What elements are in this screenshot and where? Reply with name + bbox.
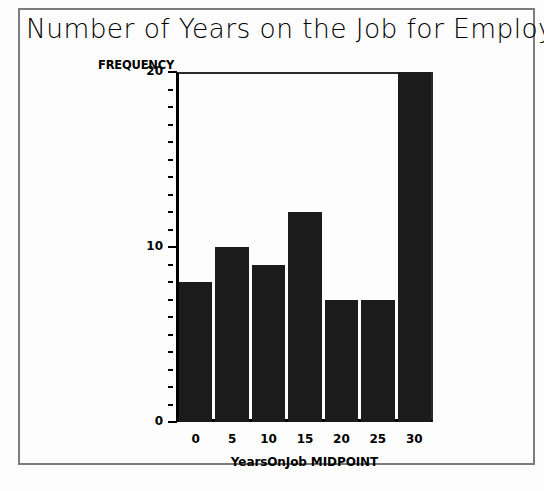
y-axis-minor-tick bbox=[168, 404, 173, 406]
x-axis-tick-label: 25 bbox=[361, 432, 394, 446]
y-axis-minor-tick bbox=[168, 264, 173, 266]
y-axis-minor-tick bbox=[168, 386, 173, 388]
y-axis-minor-tick bbox=[168, 334, 173, 336]
y-axis-tick-label: 20 bbox=[146, 64, 163, 78]
y-axis-minor-tick bbox=[168, 194, 173, 196]
bar bbox=[361, 300, 394, 423]
y-axis-tick-label: 10 bbox=[146, 239, 163, 253]
y-axis-minor-tick bbox=[168, 124, 173, 126]
y-axis-minor-tick bbox=[168, 351, 173, 353]
x-axis-tick-label: 20 bbox=[325, 432, 358, 446]
x-axis-tick-label: 15 bbox=[288, 432, 321, 446]
bar bbox=[398, 72, 431, 422]
x-axis-tick-labels: 051015202530 bbox=[179, 432, 431, 446]
x-axis-tick-label: 30 bbox=[398, 432, 431, 446]
y-axis-minor-tick bbox=[168, 299, 173, 301]
y-axis-minor-tick bbox=[168, 281, 173, 283]
y-axis-tick-label: 0 bbox=[155, 414, 163, 428]
y-axis-minor-tick bbox=[168, 159, 173, 161]
bar bbox=[179, 282, 212, 422]
y-axis-major-tick: 10 bbox=[168, 246, 177, 248]
chart-canvas: Number of Years on the Job for Employees… bbox=[0, 0, 544, 491]
bar bbox=[252, 265, 285, 423]
y-axis-minor-tick bbox=[168, 106, 173, 108]
y-axis-major-tick: 20 bbox=[168, 71, 177, 73]
y-axis-minor-tick bbox=[168, 89, 173, 91]
x-axis-tick-label: 5 bbox=[215, 432, 248, 446]
bar bbox=[325, 300, 358, 423]
y-axis-minor-tick bbox=[168, 316, 173, 318]
y-axis-minor-tick bbox=[168, 141, 173, 143]
y-axis-minor-tick bbox=[168, 229, 173, 231]
x-axis-tick-label: 0 bbox=[179, 432, 212, 446]
bar bbox=[288, 212, 321, 422]
page-title: Number of Years on the Job for Employees bbox=[26, 12, 526, 46]
y-axis-ticks: 01020 bbox=[168, 72, 176, 422]
y-axis-major-tick: 0 bbox=[168, 421, 177, 423]
x-axis-label: YearsOnJob MIDPOINT bbox=[176, 455, 433, 469]
bar bbox=[215, 247, 248, 422]
y-axis-minor-tick bbox=[168, 369, 173, 371]
x-axis-tick-label: 10 bbox=[252, 432, 285, 446]
y-axis-minor-tick bbox=[168, 211, 173, 213]
y-axis-minor-tick bbox=[168, 176, 173, 178]
bar-series bbox=[179, 72, 431, 422]
